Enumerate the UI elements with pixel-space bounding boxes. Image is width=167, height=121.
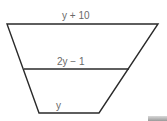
midsegment-label-text: 2y − 1 xyxy=(57,56,85,67)
bottom-base-label-text: y xyxy=(56,100,61,111)
top-base-label-text: y + 10 xyxy=(62,10,90,21)
top-base-label: y + 10 xyxy=(62,11,90,21)
midsegment-label: 2y − 1 xyxy=(57,57,85,67)
bottom-base-label: y xyxy=(56,101,61,111)
corner-scan-mark xyxy=(148,116,167,121)
